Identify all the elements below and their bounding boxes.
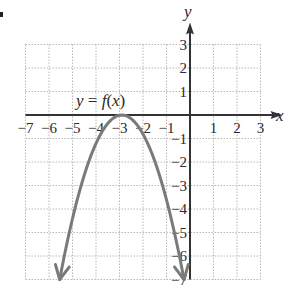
parabola-path — [60, 115, 184, 280]
x-axis-label: x — [275, 106, 284, 125]
y-tick-label: −1 — [171, 131, 187, 147]
y-axis-label: y — [182, 2, 192, 21]
y-tick-label: −4 — [171, 201, 187, 217]
axes — [26, 23, 283, 280]
y-tick-label: −2 — [171, 154, 187, 170]
function-graph: −7−6−5−4−3−2−1123321−1−2−3−4−5−6−7 x y y… — [0, 0, 296, 297]
x-tick-label: 3 — [257, 120, 265, 136]
y-tick-label: 2 — [180, 60, 188, 76]
x-tick-label: 2 — [233, 120, 241, 136]
x-tick-label: −3 — [112, 120, 128, 136]
x-tick-label: −7 — [18, 120, 34, 136]
problem-marker — [0, 12, 3, 17]
x-tick-label: −5 — [65, 120, 81, 136]
grid — [26, 45, 261, 280]
y-tick-label: 3 — [180, 37, 188, 53]
y-tick-label: −3 — [171, 178, 187, 194]
parabola-curve — [55, 115, 188, 280]
x-tick-label: −6 — [41, 120, 57, 136]
y-tick-label: 1 — [180, 84, 188, 100]
function-label: y = f(x) — [74, 91, 125, 110]
x-tick-label: 1 — [210, 120, 218, 136]
